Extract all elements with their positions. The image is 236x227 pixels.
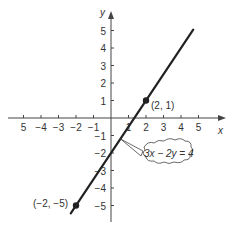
x-tick-label: −3 xyxy=(53,122,65,133)
y-tick-label: −2 xyxy=(95,148,107,159)
x-tick-label: −4 xyxy=(35,122,47,133)
y-tick-label: −1 xyxy=(95,131,107,142)
y-axis-arrow-icon xyxy=(108,11,114,19)
x-tick-label: 3 xyxy=(161,122,167,133)
x-axis-arrow-icon xyxy=(218,115,226,121)
y-tick-label: 2 xyxy=(100,78,106,89)
x-axis-label: x xyxy=(217,125,224,136)
data-point xyxy=(143,97,149,103)
y-tick-label: 4 xyxy=(100,43,106,54)
y-tick-label: −5 xyxy=(95,201,107,212)
x-tick-label: 2 xyxy=(143,122,149,133)
data-point xyxy=(73,202,79,208)
y-tick-label: 5 xyxy=(100,26,106,37)
x-tick-label: 5 xyxy=(21,122,27,133)
y-tick-label: 1 xyxy=(100,96,106,107)
x-tick-label: 5 xyxy=(196,122,202,133)
point-label-2-1: (2, 1) xyxy=(151,100,174,111)
callout-pointer xyxy=(121,139,143,156)
y-axis-label: y xyxy=(99,7,106,18)
equation-label: 3x − 2y = 4 xyxy=(144,148,194,159)
point-label-neg2-neg5: (−2, −5) xyxy=(33,198,68,209)
y-tick-label: 3 xyxy=(100,61,106,72)
y-tick-label: −4 xyxy=(95,183,107,194)
coordinate-plane-chart: 5−4−3−2−112345−5−4−3−2−112345 x y (2, 1)… xyxy=(0,0,236,227)
x-tick-label: −2 xyxy=(70,122,82,133)
x-tick-label: 4 xyxy=(178,122,184,133)
